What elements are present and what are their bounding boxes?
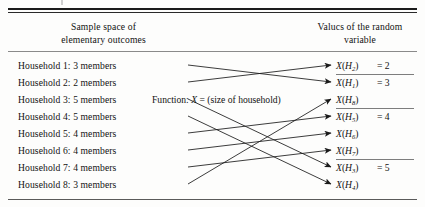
value-symbol-8: X(H4) [336, 179, 373, 191]
value-symbol-1: X(H2) [336, 60, 373, 72]
top-rule-thick [8, 8, 417, 10]
value-row-2: X(H1)= 3 [336, 77, 422, 91]
column-header-random-variable-line1: Valucs of the random [300, 20, 420, 33]
outcome-item-1: Household 1: 3 members [18, 60, 183, 71]
top-rule-thin [8, 12, 417, 13]
value-row-3: X(H8) [336, 94, 422, 108]
column-header-random-variable: Valucs of the random variable [300, 20, 420, 46]
mapping-arrow-2 [188, 65, 331, 82]
value-equals-4: = 4 [373, 111, 390, 122]
column-header-random-variable-line2: variable [300, 33, 420, 46]
value-symbol-5: X(H6) [336, 128, 373, 140]
mapping-arrow-1 [188, 65, 331, 82]
value-row-1: X(H2)= 2 [336, 60, 422, 74]
column-header-sample-space: Sample space of elementary outcomes [16, 20, 191, 46]
outcome-item-7: Household 7: 4 members [18, 162, 183, 173]
outcome-item-2: Household 2: 2 members [18, 77, 183, 88]
value-symbol-6: X(H7) [336, 145, 373, 157]
outcome-item-6: Household 6: 4 members [18, 145, 183, 156]
function-label-suffix: = (size of household) [197, 94, 281, 105]
mapping-arrow-3 [188, 99, 331, 167]
outcome-item-5: Household 5: 4 members [18, 128, 183, 139]
value-group-rule-2 [336, 108, 414, 109]
value-symbol-4: X(H5) [336, 111, 373, 123]
value-row-6: X(H7) [336, 145, 422, 159]
mapping-arrow-4 [188, 116, 331, 184]
value-group-rule-1 [336, 74, 414, 75]
column-header-sample-space-line1: Sample space of [16, 20, 191, 33]
column-header-sample-space-line2: elementary outcomes [16, 33, 191, 46]
value-symbol-3: X(H8) [336, 94, 373, 106]
mapping-arrow-5 [188, 116, 331, 133]
figure-container: Sample space of elementary outcomes Valu… [0, 0, 425, 207]
header-separator-rule [8, 51, 417, 52]
mapping-arrow-8 [188, 99, 331, 184]
value-row-4: X(H5)= 4 [336, 111, 422, 125]
mapping-arrow-6 [188, 133, 331, 150]
function-label: Function: X = (size of household) [152, 94, 281, 105]
value-row-8: X(H4) [336, 179, 422, 193]
value-row-7: X(H3)= 5 [336, 162, 422, 176]
outcome-item-8: Household 8: 3 members [18, 179, 183, 190]
value-equals-7: = 5 [373, 162, 390, 173]
bottom-rule [8, 199, 417, 200]
scan-speck [61, 0, 63, 5]
value-group-rule-3 [336, 159, 414, 160]
value-equals-1: = 2 [373, 60, 390, 71]
function-label-prefix: Function: [152, 94, 191, 105]
mapping-arrow-7 [188, 150, 331, 167]
value-row-5: X(H6) [336, 128, 422, 142]
outcome-item-4: Household 4: 5 members [18, 111, 183, 122]
value-symbol-2: X(H1) [336, 77, 373, 89]
value-equals-2: = 3 [373, 77, 390, 88]
value-symbol-7: X(H3) [336, 162, 373, 174]
